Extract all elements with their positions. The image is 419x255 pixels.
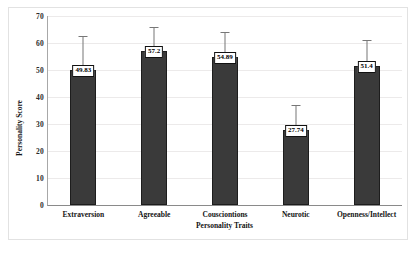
x-axis-tick-label: Cousciontions [202,210,247,219]
y-axis-tick-label: 10 [36,174,44,183]
error-bar-cap [150,27,159,28]
y-axis-tick-label: 20 [36,147,44,156]
x-axis-tick-label: Openness/Intellect [337,210,396,219]
bar-chart-figure: Personality Score 010203040506070 49.83E… [0,0,419,255]
bar-group[interactable]: 51.4Openness/Intellect [331,16,402,205]
bar[interactable] [354,66,380,205]
bar[interactable] [212,57,238,205]
x-axis-tick-label: Extraversion [63,210,105,219]
bar-value-label: 51.4 [357,61,375,73]
x-axis-tick-label: Neurotic [282,210,310,219]
bars-layer: 49.83Extraversion57.2Agreeable54.89Cousc… [48,16,402,205]
y-axis-tick-label: 60 [36,39,44,48]
y-axis-tick-label: 70 [36,12,44,21]
y-axis-tick-label: 30 [36,120,44,129]
x-axis-title: Personality Traits [47,221,402,230]
y-axis-tick-label: 40 [36,93,44,102]
bar-group[interactable]: 57.2Agreeable [119,16,190,205]
bar[interactable] [70,70,96,205]
plot-area: 010203040506070 49.83Extraversion57.2Agr… [47,16,402,206]
bar-group[interactable]: 49.83Extraversion [48,16,119,205]
bar-group[interactable]: 54.89Cousciontions [190,16,261,205]
error-bar-cap [79,36,88,37]
bar-group[interactable]: 27.74Neurotic [260,16,331,205]
error-bar-cap [362,40,371,41]
y-axis-tick-label: 50 [36,66,44,75]
bar-value-label: 49.83 [73,65,95,77]
error-bar-cap [291,105,300,106]
bar[interactable] [141,51,167,205]
bar[interactable] [283,130,309,205]
bar-value-label: 54.89 [214,52,236,64]
error-bar-cap [220,32,229,33]
y-axis-title: Personality Score [15,100,24,156]
bar-value-label: 57.2 [145,46,163,58]
bar-value-label: 27.74 [285,125,307,137]
y-axis-tick-label: 0 [40,201,44,210]
x-axis-tick-label: Agreeable [138,210,170,219]
